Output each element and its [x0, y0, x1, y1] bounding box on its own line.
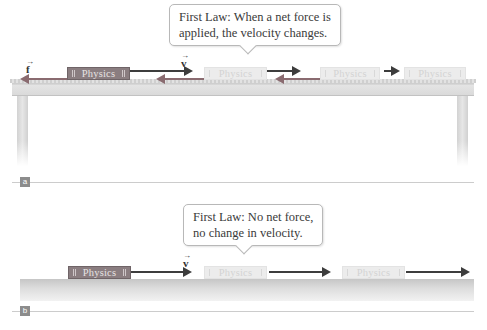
- book-title: Physics: [219, 68, 253, 79]
- book-physics-3: Physics: [342, 266, 405, 279]
- book-spine-band: [73, 269, 74, 276]
- velocity-arrow-1: [131, 271, 184, 273]
- floor-surface: [20, 279, 474, 301]
- velocity-arrow-3: [384, 70, 392, 72]
- book-spine-band: [460, 70, 461, 77]
- arrow-head-icon: [391, 66, 400, 76]
- book-spine-band: [261, 269, 262, 276]
- book-spine-band: [125, 269, 126, 276]
- table-leg-right: [457, 96, 468, 166]
- vector-overarrow: →: [181, 51, 189, 60]
- book-physics-1: Physics: [67, 67, 130, 80]
- book-spine-band: [209, 269, 210, 276]
- callout-line-1: First Law: No net force,: [193, 209, 313, 225]
- book-physics-1: Physics: [68, 266, 131, 279]
- book-spine-band: [399, 269, 400, 276]
- friction-arrow-3: [283, 78, 321, 80]
- book-title: Physics: [357, 267, 391, 278]
- vector-overarrow: →: [183, 251, 191, 260]
- book-spine-band: [409, 70, 410, 77]
- callout-first-law-no-net-force: First Law: No net force, no change in ve…: [183, 204, 323, 246]
- book-spine-band: [347, 269, 348, 276]
- friction-arrow-2: [164, 78, 204, 80]
- vector-overarrow: →: [26, 57, 34, 66]
- velocity-arrow-1: [130, 70, 185, 72]
- arrow-head-icon: [20, 74, 29, 84]
- panel-b-label: b: [20, 306, 30, 316]
- arrow-head-icon: [275, 74, 284, 84]
- book-spine-band: [124, 70, 125, 77]
- arrow-head-icon: [292, 66, 301, 76]
- book-spine-band: [75, 269, 76, 276]
- book-title: Physics: [82, 68, 116, 79]
- panel-a-divider: [12, 182, 474, 183]
- arrow-head-icon: [184, 66, 193, 76]
- book-spine-band: [209, 70, 210, 77]
- book-physics-4: Physics: [404, 67, 466, 80]
- velocity-arrow-2: [267, 70, 293, 72]
- arrow-head-icon: [156, 74, 165, 84]
- book-physics-2: Physics: [204, 67, 267, 80]
- book-physics-3: Physics: [320, 67, 380, 80]
- arrow-head-icon: [322, 267, 331, 277]
- friction-arrow: [28, 78, 68, 80]
- table-top: [12, 79, 474, 96]
- callout-line-2: no change in velocity.: [193, 225, 313, 241]
- panel-a-label: a: [20, 177, 30, 187]
- book-spine-band: [325, 70, 326, 77]
- book-spine-band: [261, 70, 262, 77]
- book-spine-band: [72, 70, 73, 77]
- arrow-head-icon: [183, 267, 192, 277]
- book-title: Physics: [418, 68, 452, 79]
- book-physics-2: Physics: [204, 266, 267, 279]
- book-title: Physics: [83, 267, 117, 278]
- table-leg-left: [17, 96, 28, 166]
- velocity-arrow-3: [406, 271, 462, 273]
- book-spine-band: [123, 269, 124, 276]
- callout-line-1: First Law: When a net force is: [179, 9, 331, 25]
- book-title: Physics: [219, 267, 253, 278]
- book-title: Physics: [333, 68, 367, 79]
- velocity-arrow-2: [269, 271, 323, 273]
- callout-first-law-net-force: First Law: When a net force is applied, …: [169, 4, 341, 46]
- panel-b-divider: [12, 311, 474, 312]
- book-spine-band: [74, 70, 75, 77]
- callout-line-2: applied, the velocity changes.: [179, 25, 331, 41]
- book-spine-band: [122, 70, 123, 77]
- arrow-head-icon: [461, 267, 470, 277]
- book-spine-band: [374, 70, 375, 77]
